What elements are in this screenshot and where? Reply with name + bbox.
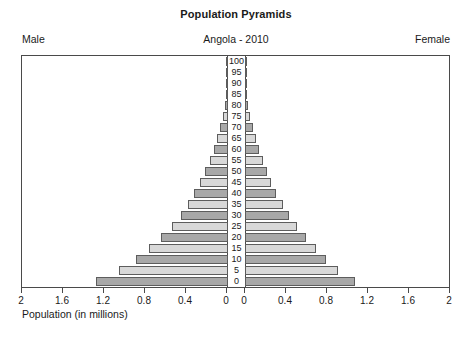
x-tick-label-left: 0.8 [137, 295, 151, 306]
age-group-label: 30 [228, 211, 245, 220]
age-group-label: 100 [228, 57, 245, 66]
male-bar-row [22, 79, 228, 88]
male-bar [136, 255, 228, 264]
x-tick-right [449, 288, 450, 293]
male-bar [96, 277, 228, 286]
male-bar [205, 167, 228, 176]
female-bar-row [245, 156, 449, 165]
x-tick-label-right: 0.8 [319, 295, 333, 306]
female-bar [245, 222, 297, 231]
male-bar [220, 123, 228, 132]
male-bar [217, 134, 228, 143]
age-group-label: 90 [228, 79, 245, 88]
male-bar [161, 233, 228, 242]
male-bar [188, 200, 228, 209]
female-bar-row [245, 57, 449, 66]
female-bar-row [245, 167, 449, 176]
male-bar-row [22, 57, 228, 66]
male-bar-row [22, 167, 228, 176]
female-bar [245, 167, 267, 176]
x-tick-label-right: 0 [241, 295, 247, 306]
age-group-label: 80 [228, 101, 245, 110]
female-bar [245, 178, 271, 187]
x-tick-left [185, 288, 186, 293]
x-tick-left [226, 288, 227, 293]
x-tick-left [21, 288, 22, 293]
male-bar-row [22, 211, 228, 220]
x-tick-right [285, 288, 286, 293]
age-group-label: 15 [228, 244, 245, 253]
male-bar-row [22, 178, 228, 187]
female-bar [245, 79, 247, 88]
female-bar-row [245, 90, 449, 99]
male-bar-row [22, 134, 228, 143]
female-bars-pane [245, 56, 449, 287]
female-bar-row [245, 123, 449, 132]
x-tick-right [367, 288, 368, 293]
x-tick-label-right: 0.4 [278, 295, 292, 306]
male-bar-row [22, 200, 228, 209]
age-group-label: 50 [228, 167, 245, 176]
page-title: Population Pyramids [0, 8, 472, 20]
female-bar-row [245, 200, 449, 209]
female-bar [245, 156, 263, 165]
male-bar [214, 145, 228, 154]
x-tick-left [144, 288, 145, 293]
population-pyramid-figure: Population Pyramids Male Angola - 2010 F… [0, 0, 472, 341]
female-bar [245, 112, 250, 121]
female-bar-row [245, 134, 449, 143]
female-bar-row [245, 189, 449, 198]
female-bar-row [245, 222, 449, 231]
male-bar-row [22, 244, 228, 253]
x-tick-label-left: 0 [223, 295, 229, 306]
age-group-label: 40 [228, 189, 245, 198]
female-bar [245, 233, 306, 242]
age-group-label: 20 [228, 233, 245, 242]
female-bar-row [245, 79, 449, 88]
male-bar-row [22, 101, 228, 110]
female-bar [245, 277, 355, 286]
male-bar [119, 266, 228, 275]
male-bar-row [22, 123, 228, 132]
plot-area: 0510152025303540455055606570758085909510… [21, 55, 450, 288]
x-tick-left [103, 288, 104, 293]
female-side-label: Female [415, 33, 450, 45]
male-bar-row [22, 68, 228, 77]
age-group-label: 85 [228, 90, 245, 99]
male-bar-row [22, 189, 228, 198]
male-bar-row [22, 277, 228, 286]
male-bar [172, 222, 228, 231]
x-axis: 21.61.20.80.4000.40.81.21.62 [21, 288, 450, 289]
male-bar-row [22, 145, 228, 154]
male-bar [210, 156, 228, 165]
male-bar [149, 244, 228, 253]
female-bar [245, 57, 247, 66]
age-label-column: 0510152025303540455055606570758085909510… [228, 56, 245, 287]
female-bar-row [245, 178, 449, 187]
x-tick-label-left: 2 [18, 295, 24, 306]
female-bar [245, 145, 259, 154]
male-bar-row [22, 255, 228, 264]
age-group-label: 75 [228, 112, 245, 121]
male-bar [181, 211, 228, 220]
female-bar [245, 68, 247, 77]
age-group-label: 45 [228, 178, 245, 187]
female-bar-row [245, 101, 449, 110]
female-bar [245, 200, 283, 209]
female-bar [245, 255, 326, 264]
x-tick-label-left: 0.4 [178, 295, 192, 306]
x-tick-label-left: 1.2 [96, 295, 110, 306]
female-bar-row [245, 266, 449, 275]
male-bar [200, 178, 228, 187]
female-bar [245, 134, 256, 143]
x-tick-label-right: 1.2 [360, 295, 374, 306]
x-tick-right [408, 288, 409, 293]
female-bar [245, 90, 247, 99]
female-bar [245, 211, 289, 220]
x-tick-label-left: 1.6 [55, 295, 69, 306]
male-bar-row [22, 90, 228, 99]
age-group-label: 0 [228, 277, 245, 286]
x-tick-label-right: 1.6 [401, 295, 415, 306]
x-tick-right [326, 288, 327, 293]
female-bar-row [245, 145, 449, 154]
